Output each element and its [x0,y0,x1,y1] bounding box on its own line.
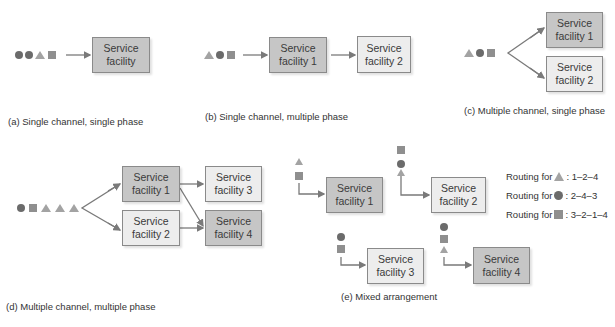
service-facility-e-1: Servicefacility 1 [326,177,383,213]
box-label-line1: Service [215,215,253,228]
routing-sequence: : 2–4–3 [565,190,597,201]
box-label-line1: Service [440,182,478,195]
service-facility-d-4: Servicefacility 4 [205,210,262,246]
box-label-line1: Service [279,42,317,55]
queue-d [17,204,79,212]
box-label-line1: Service [483,253,521,266]
service-facility-d-2: Servicefacility 2 [122,210,180,246]
service-facility-d-1: Servicefacility 1 [122,166,180,202]
service-facility-c-2: Servicefacility 2 [546,56,603,92]
box-label-line2: facility 4 [483,266,521,279]
square-icon [554,210,563,219]
box-label-line2: facility 2 [556,74,594,87]
box-label-line2: facility 1 [132,184,170,197]
box-label-line2: facility 1 [336,195,374,208]
box-label-line2: facility [103,55,138,68]
caption-b: (b) Single channel, multiple phase [205,111,348,122]
box-label-line2: facility 2 [132,228,170,241]
box-label-line1: Service [556,17,594,30]
service-facility-a: Servicefacility [92,37,150,73]
arrow-e-1 [299,183,324,194]
caption-a: (a) Single channel, single phase [8,116,143,127]
service-facility-e-2: Servicefacility 2 [431,177,486,213]
box-label-line1: Service [365,42,403,55]
service-facility-c-1: Servicefacility 1 [546,12,603,48]
routing-prefix: Routing for [506,190,552,201]
box-label-line2: facility 4 [215,228,253,241]
routing-prefix: Routing for [506,171,552,182]
queue-c [464,49,495,57]
routing-legend-circle: Routing for : 2–4–3 [506,190,597,201]
arrow-e-4 [444,257,471,265]
routing-prefix: Routing for [506,209,552,220]
box-label-line2: facility 2 [440,195,478,208]
queue-a [15,51,56,59]
routing-sequence: : 1–2–4 [566,171,598,182]
arrow-c-fork [508,28,544,78]
queue-e-4 [440,223,448,253]
box-label-line2: facility 1 [279,55,317,68]
arrow-d-1-4 [180,188,203,226]
box-label-line1: Service [215,171,253,184]
caption-d: (d) Multiple channel, multiple phase [6,301,155,312]
service-facility-e-4: Servicefacility 4 [473,247,530,284]
box-label-line1: Service [377,253,415,266]
service-facility-e-3: Servicefacility 3 [367,248,424,284]
routing-legend-square: Routing for : 3–2–1–4 [506,209,608,220]
box-label-line2: facility 3 [215,184,253,197]
routing-sequence: : 3–2–1–4 [565,209,607,220]
service-facility-b-2: Servicefacility 2 [357,36,411,73]
service-facility-b-1: Servicefacility 1 [269,37,327,73]
arrow-d-fork [82,184,120,230]
box-label-line1: Service [132,171,170,184]
circle-icon [554,191,563,200]
arrow-e-2 [401,175,429,195]
caption-c: (c) Multiple channel, single phase [464,105,605,116]
triangle-icon [554,172,564,181]
queue-e-2 [397,146,405,176]
box-label-line1: Service [132,215,170,228]
service-facility-d-3: Servicefacility 3 [205,166,262,202]
queue-e-3 [337,233,345,253]
routing-legend-triangle: Routing for : 1–2–4 [506,171,598,182]
box-label-line2: facility 2 [365,55,403,68]
box-label-line2: facility 1 [556,30,594,43]
queue-e-1 [295,158,303,180]
arrow-e-3 [341,257,365,265]
box-label-line1: Service [336,182,374,195]
box-label-line1: Service [103,42,138,55]
box-label-line2: facility 3 [377,266,415,279]
caption-e: (e) Mixed arrangement [341,291,437,302]
queue-b [204,51,235,59]
box-label-line1: Service [556,61,594,74]
